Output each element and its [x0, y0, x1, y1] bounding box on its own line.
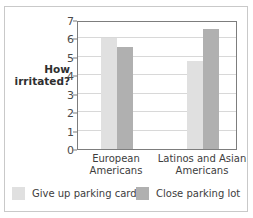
chart-figure: How irritated? 01234567 Give up parking … — [0, 0, 253, 218]
x-axis-category-label: Latinos and AsianAmericans — [150, 153, 253, 176]
y-axis-tick-mark — [73, 131, 77, 132]
y-axis-tick-mark — [73, 21, 77, 22]
y-axis-tick-mark — [73, 39, 77, 40]
y-axis-tick-mark — [73, 57, 77, 58]
legend-swatch — [136, 187, 149, 200]
legend-label: Close parking lot — [156, 188, 240, 200]
bar — [117, 47, 133, 149]
y-axis-tick-mark — [73, 113, 77, 114]
y-axis-tick-mark — [73, 94, 77, 95]
chart-legend: Give up parking cardClose parking lot — [12, 187, 240, 203]
bar — [187, 61, 203, 149]
bar — [203, 29, 219, 149]
plot-area — [77, 21, 237, 150]
legend-label: Give up parking card — [32, 188, 137, 200]
y-axis-tick-mark — [73, 76, 77, 77]
y-axis-tick-mark — [73, 150, 77, 151]
category-label-line: Americans — [150, 165, 253, 177]
category-label-line: Latinos and Asian — [150, 153, 253, 165]
bar — [101, 38, 117, 149]
legend-item[interactable]: Close parking lot — [136, 187, 240, 200]
y-axis-tick-labels: 01234567 — [58, 21, 74, 150]
legend-item[interactable]: Give up parking card — [12, 187, 137, 200]
legend-swatch — [12, 187, 25, 200]
